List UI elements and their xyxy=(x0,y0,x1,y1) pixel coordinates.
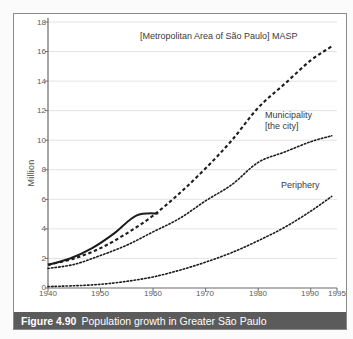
plot-area: Million 18 16 14 12 10 8 6 4 2 0 1940 19… xyxy=(0,0,353,300)
gridlines xyxy=(48,22,337,258)
series-path-periphery xyxy=(48,196,332,286)
caption-text: Population growth in Greater São Paulo xyxy=(81,315,266,327)
caption-number: Figure 4.90 xyxy=(21,315,76,327)
series-label-municipality: Municipality [the city] xyxy=(265,110,312,132)
figure-container: Million 18 16 14 12 10 8 6 4 2 0 1940 19… xyxy=(0,0,353,339)
series-layer xyxy=(48,46,332,286)
series-label-periphery: Periphery xyxy=(281,180,320,191)
axis-tickmarks xyxy=(45,22,337,292)
figure-caption-bar: Figure 4.90 Population growth in Greater… xyxy=(14,312,346,329)
series-path-metropolitan-area-of-s-o-paulo-masp xyxy=(48,46,332,264)
chart-canvas xyxy=(0,0,353,300)
series-path-masp-observed-solid-overlap xyxy=(48,213,158,264)
series-label-masp: [Metropolitan Area of São Paulo] MASP xyxy=(140,31,298,42)
